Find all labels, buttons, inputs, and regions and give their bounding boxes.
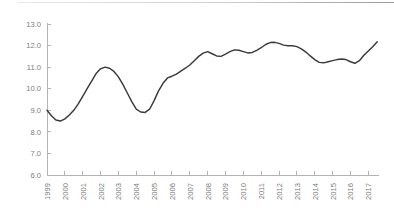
x-tick-label: 2004 [132,183,141,200]
y-tick-label: 6.0 [30,171,41,180]
x-tick-label: 2006 [168,183,177,200]
x-tick-label: 2011 [257,183,266,199]
x-tick-label: 2016 [346,183,355,200]
x-tick-label: 2003 [114,183,123,200]
x-tick-label: 2009 [221,183,230,200]
x-tick-label: 1999 [43,183,52,200]
x-tick-label: 2000 [61,183,70,200]
x-tick-label: 2010 [239,183,248,200]
data-series-group [47,42,377,121]
y-tick-label: 12.0 [26,41,41,50]
y-tick-label: 8.0 [30,128,41,137]
top-divider-rule [18,2,394,3]
x-tick-label: 2005 [150,183,159,200]
y-tick-label: 10.0 [26,84,41,93]
x-axis: 1999200020012002200320042005200620072008… [43,171,379,200]
x-tick-label: 2008 [204,183,213,200]
x-tick-label: 2017 [364,183,373,200]
x-tick-label: 2015 [329,183,338,200]
line-chart: 6.07.08.09.010.011.012.013.0 19992000200… [0,0,394,223]
x-tick-label: 2012 [275,183,284,200]
x-tick-label: 2014 [311,183,320,200]
y-axis: 6.07.08.09.010.011.012.013.0 [26,20,51,180]
x-tick-label: 2007 [186,183,195,200]
y-tick-label: 7.0 [30,149,41,158]
x-tick-label: 2001 [79,183,88,200]
x-tick-label: 2013 [293,183,302,200]
y-tick-label: 9.0 [30,106,41,115]
x-tick-label: 2002 [97,183,106,200]
chart-figure: 6.07.08.09.010.011.012.013.0 19992000200… [0,0,394,223]
y-tick-label: 13.0 [26,20,41,29]
y-tick-label: 11.0 [27,63,41,72]
series-line-series-1 [47,42,377,121]
